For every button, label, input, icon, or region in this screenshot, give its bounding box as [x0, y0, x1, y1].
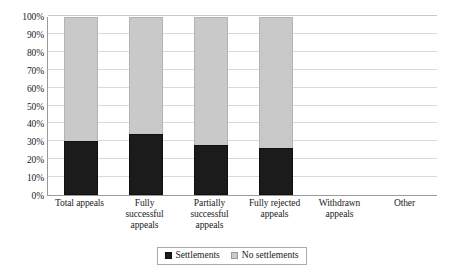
y-axis-tick-label: 10%: [0, 173, 44, 183]
y-axis-tick-label: 100%: [0, 12, 44, 22]
chart-legend: SettlementsNo settlements: [156, 247, 306, 265]
bar-group: [64, 17, 98, 195]
x-axis: Total appealsFullysuccessfulappealsParti…: [47, 198, 437, 242]
legend-label: No settlements: [242, 250, 299, 261]
x-axis-tick-label-line: Other: [364, 198, 445, 209]
bar-stack: [64, 17, 98, 195]
gridline: [48, 176, 437, 177]
x-axis-tick-label: Other: [364, 198, 445, 209]
gridline: [48, 158, 437, 159]
bar-segment-no-settlements: [129, 17, 163, 135]
bar-segment-no-settlements: [259, 17, 293, 149]
gridline: [48, 87, 437, 88]
x-axis-tick-label-line: appeals: [169, 220, 250, 231]
gridline: [48, 33, 437, 34]
stacked-bar-chart: 0%10%20%30%40%50%60%70%80%90%100% Total …: [0, 0, 463, 276]
y-axis-tick-label: 40%: [0, 119, 44, 129]
plot-area: [47, 17, 437, 196]
bar-segment-settlements: [194, 145, 228, 195]
legend-item: No settlements: [231, 250, 299, 261]
gridline: [48, 140, 437, 141]
bar-stack: [259, 17, 293, 195]
bar-segment-settlements: [259, 148, 293, 195]
y-axis-tick-label: 50%: [0, 102, 44, 112]
legend-label: Settlements: [175, 250, 219, 261]
bar-stack: [129, 17, 163, 195]
bar-segment-no-settlements: [64, 17, 98, 142]
y-axis-tick-label: 60%: [0, 84, 44, 94]
gridline: [48, 69, 437, 70]
bar-group: [194, 17, 228, 195]
y-axis-tick-label: 0%: [0, 191, 44, 201]
y-axis-tick-label: 90%: [0, 30, 44, 40]
legend-swatch-icon: [164, 252, 171, 259]
bar-group: [259, 17, 293, 195]
x-axis-tick-label-line: appeals: [299, 209, 380, 220]
gridline: [48, 122, 437, 123]
y-axis-tick-label: 20%: [0, 155, 44, 165]
bar-group: [129, 17, 163, 195]
legend-item: Settlements: [164, 250, 219, 261]
bar-segment-no-settlements: [194, 17, 228, 146]
y-axis-tick-label: 30%: [0, 137, 44, 147]
gridline: [48, 15, 437, 16]
bar-segment-settlements: [64, 141, 98, 195]
legend-swatch-icon: [231, 252, 238, 259]
y-axis-tick-label: 80%: [0, 48, 44, 58]
bar-stack: [194, 17, 228, 195]
gridline: [48, 51, 437, 52]
bar-segment-settlements: [129, 134, 163, 195]
y-axis-tick-label: 70%: [0, 66, 44, 76]
y-axis: 0%10%20%30%40%50%60%70%80%90%100%: [0, 0, 44, 196]
gridline: [48, 105, 437, 106]
